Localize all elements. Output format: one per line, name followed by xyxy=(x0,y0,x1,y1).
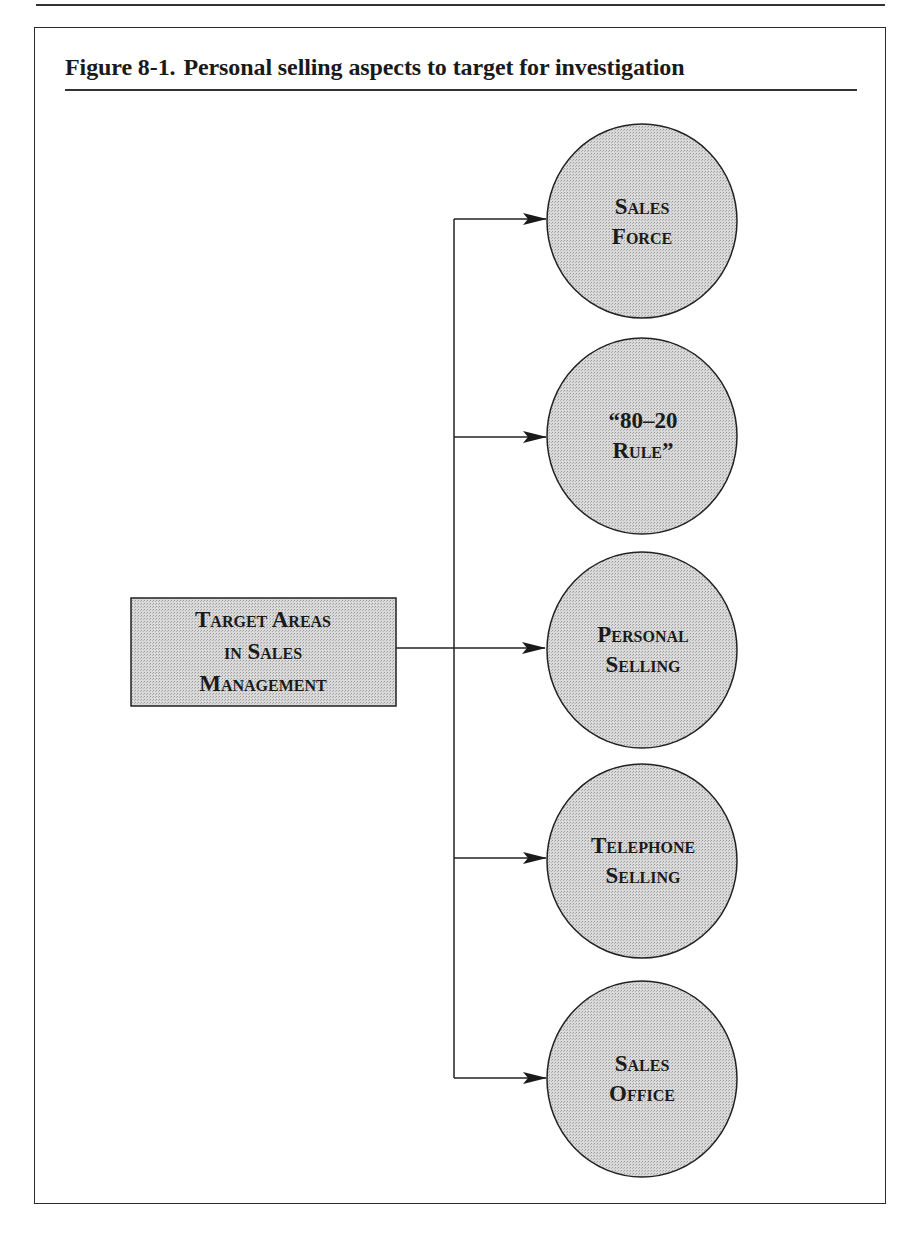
node-label-line-2: Force xyxy=(612,222,672,252)
node-label-personal-selling: Personal Selling xyxy=(597,620,688,680)
root-label-line-2: in Sales xyxy=(195,636,331,668)
node-label-line-1: Personal xyxy=(597,620,688,650)
node-label-line-2: Office xyxy=(609,1079,675,1109)
node-label-sales-force: Sales Force xyxy=(612,192,672,252)
node-label-sales-office: Sales Office xyxy=(609,1049,675,1109)
node-label-80-20-rule: “80–20 Rule” xyxy=(609,406,678,466)
root-label-line-3: Management xyxy=(195,668,331,700)
node-label-line-1: Telephone xyxy=(591,831,695,861)
diagram-canvas xyxy=(0,0,913,1243)
node-label-line-2: Selling xyxy=(597,650,688,680)
node-label-line-1: Sales xyxy=(612,192,672,222)
node-label-telephone-selling: Telephone Selling xyxy=(591,831,695,891)
node-label-line-1: Sales xyxy=(609,1049,675,1079)
node-label-line-2: Rule” xyxy=(609,436,678,466)
node-label-line-1: “80–20 xyxy=(609,406,678,436)
root-label-line-1: Target Areas xyxy=(195,604,331,636)
root-node-label: Target Areas in Sales Management xyxy=(195,604,331,700)
node-label-line-2: Selling xyxy=(591,861,695,891)
